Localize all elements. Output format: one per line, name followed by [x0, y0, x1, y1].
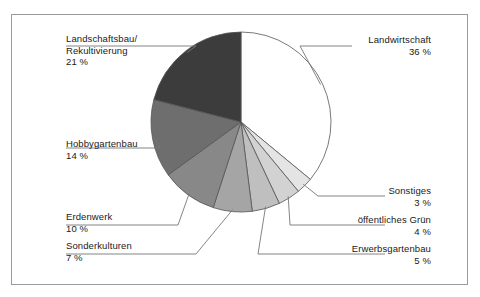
label-erdenwerk-name: Erdenwerk: [66, 211, 112, 222]
label-landwirtschaft: Landwirtschaft 36 %: [368, 34, 431, 57]
label-oeffentliches-gruen: öffentliches Grün 4 %: [358, 214, 431, 237]
label-oeffentliches-gruen-name: öffentliches Grün: [358, 214, 431, 225]
label-erdenwerk: Erdenwerk 10 %: [66, 211, 112, 234]
label-landschaftsbau-line1: Landschaftsbau/: [66, 33, 137, 44]
label-hobbygartenbau: Hobbygartenbau 14 %: [66, 138, 138, 161]
label-erwerbsgartenbau-name: Erwerbsgartenbau: [352, 243, 431, 254]
label-sonderkulturen: Sonderkulturen 7 %: [66, 240, 132, 263]
label-sonderkulturen-pct: 7 %: [66, 252, 132, 264]
label-landschaftsbau: Landschaftsbau/ Rekultivierung 21 %: [66, 33, 137, 68]
label-hobbygartenbau-pct: 14 %: [66, 150, 138, 162]
label-sonstiges-pct: 3 %: [388, 197, 431, 209]
label-sonstiges-name: Sonstiges: [388, 185, 431, 196]
label-landwirtschaft-pct: 36 %: [368, 46, 431, 58]
label-landschaftsbau-line2: Rekultivierung: [66, 45, 128, 56]
label-sonderkulturen-name: Sonderkulturen: [66, 240, 132, 251]
label-landschaftsbau-pct: 21 %: [66, 56, 137, 68]
label-hobbygartenbau-name: Hobbygartenbau: [66, 138, 138, 149]
label-erwerbsgartenbau-pct: 5 %: [352, 255, 431, 267]
label-erwerbsgartenbau: Erwerbsgartenbau 5 %: [352, 243, 431, 266]
label-oeffentliches-gruen-pct: 4 %: [358, 226, 431, 238]
label-sonstiges: Sonstiges 3 %: [388, 185, 431, 208]
leader-line: [303, 184, 385, 196]
label-erdenwerk-pct: 10 %: [66, 223, 112, 235]
label-landwirtschaft-name: Landwirtschaft: [368, 34, 431, 45]
